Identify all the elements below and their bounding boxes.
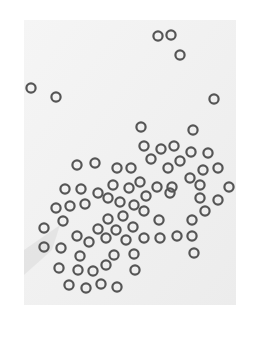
micrograph-image xyxy=(0,0,254,340)
